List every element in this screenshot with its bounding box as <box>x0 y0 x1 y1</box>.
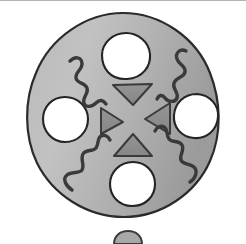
hole-top <box>102 33 150 79</box>
diagram-figure <box>0 0 246 244</box>
hole-right <box>174 94 218 138</box>
hole-bottom <box>110 162 155 206</box>
partial-disc-below <box>114 231 142 244</box>
hole-left <box>43 97 88 142</box>
figure-canvas: Hand-drawn shaded disc with four holes, … <box>0 0 246 244</box>
